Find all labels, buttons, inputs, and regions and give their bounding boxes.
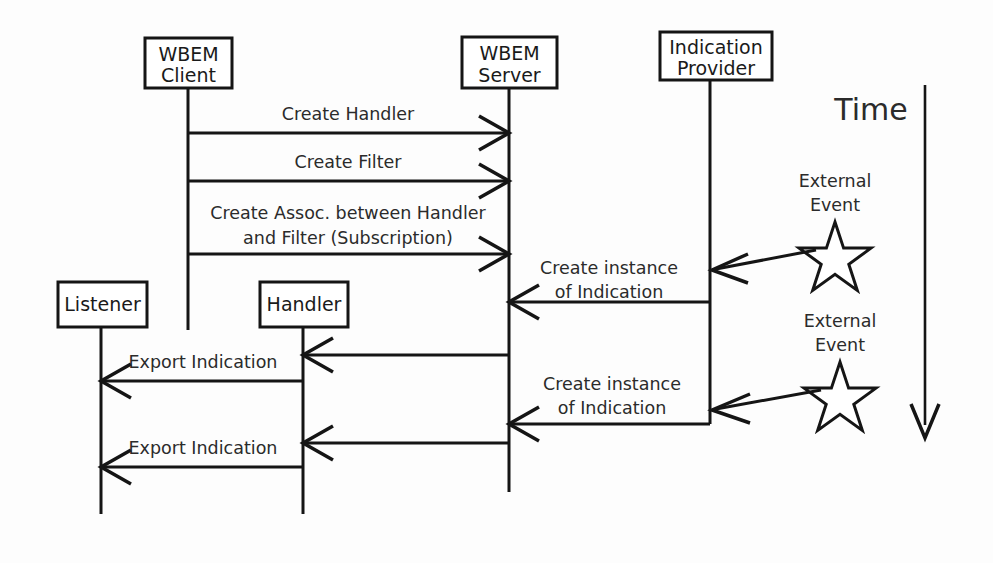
external-event-1-label-line2: Event: [810, 195, 860, 215]
arrow-head-external-event-2: [712, 394, 750, 423]
external-event-1-arrow-line: [716, 250, 816, 269]
participant-label-wbem-server-line1: WBEM: [479, 42, 539, 64]
participant-indication-provider[interactable]: Indication Provider: [660, 32, 772, 80]
participant-listener[interactable]: Listener: [58, 282, 147, 327]
participant-wbem-server[interactable]: WBEM Server: [462, 37, 557, 88]
sequence-diagram-canvas: WBEM Client WBEM Server Indication Provi…: [0, 0, 993, 563]
message-label-create-filter: Create Filter: [294, 152, 402, 172]
arrow-head-external-event-1: [712, 254, 748, 283]
message-create-instance-1[interactable]: Create instance of Indication: [509, 258, 710, 319]
participant-handler[interactable]: Handler: [260, 282, 348, 327]
message-label-create-instance-2-line2: of Indication: [558, 398, 667, 418]
message-label-export-indication-1: Export Indication: [129, 352, 278, 372]
participant-label-wbem-client-line1: WBEM: [158, 43, 218, 65]
sequence-diagram: WBEM Client WBEM Server Indication Provi…: [0, 0, 993, 563]
message-label-create-instance-2-line1: Create instance: [543, 374, 681, 394]
participant-label-handler: Handler: [267, 293, 342, 315]
external-event-1-label-line1: External: [799, 171, 872, 191]
message-label-create-instance-1-line2: of Indication: [555, 282, 664, 302]
message-label-create-association-line2: and Filter (Subscription): [243, 228, 453, 248]
message-label-export-indication-2: Export Indication: [129, 438, 278, 458]
message-label-create-handler: Create Handler: [282, 104, 415, 124]
message-create-handler[interactable]: Create Handler: [188, 104, 509, 150]
external-event-2-label-line2: Event: [815, 335, 865, 355]
message-create-instance-2[interactable]: Create instance of Indication: [509, 374, 710, 441]
participant-label-wbem-client-line2: Client: [161, 64, 216, 86]
star-icon-external-event-2: [804, 362, 876, 430]
participant-label-wbem-server-line2: Server: [478, 64, 540, 86]
participant-label-indication-provider-line2: Provider: [677, 57, 755, 79]
message-create-filter[interactable]: Create Filter: [188, 152, 509, 198]
external-event-1[interactable]: External Event: [712, 171, 871, 290]
external-event-2-label-line1: External: [804, 311, 877, 331]
participant-label-listener: Listener: [64, 293, 141, 315]
participant-wbem-client[interactable]: WBEM Client: [145, 38, 232, 88]
message-label-create-instance-1-line1: Create instance: [540, 258, 678, 278]
time-axis-label: Time: [833, 92, 907, 127]
message-label-create-association-line1: Create Assoc. between Handler: [210, 203, 486, 223]
participant-label-indication-provider-line1: Indication: [669, 36, 762, 58]
external-event-2-arrow-line: [716, 390, 821, 409]
external-event-2[interactable]: External Event: [712, 311, 876, 430]
message-export-indication-1-handler-listener[interactable]: Export Indication: [101, 352, 303, 398]
message-create-association[interactable]: Create Assoc. between Handler and Filter…: [188, 203, 509, 271]
message-export-indication-1-server-handler[interactable]: [303, 338, 509, 372]
message-export-indication-2-handler-listener[interactable]: Export Indication: [101, 438, 303, 484]
message-export-indication-2-server-handler[interactable]: [303, 426, 509, 460]
star-icon-external-event-1: [799, 222, 871, 290]
